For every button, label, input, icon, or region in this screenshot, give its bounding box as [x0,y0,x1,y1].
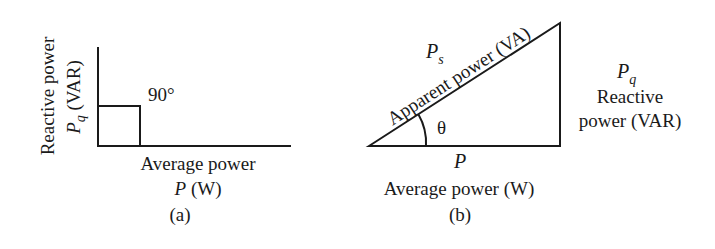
panel-b: θ Ps Apparent power (VA) Pq Reactive pow… [369,22,681,226]
angle-90-label: 90° [148,84,175,105]
reactive-label-line2: power (VAR) [579,110,682,132]
power-diagrams: 90° Reactive power Pq (VAR) Average powe… [0,0,715,249]
panel-b-caption: (b) [449,204,471,226]
average-power-label: Average power [140,153,256,174]
apparent-power-label: Apparent power (VA) [383,22,534,130]
panel-a-caption: (a) [169,204,190,226]
right-angle-marker [98,106,140,146]
apparent-power-symbol: Ps [425,40,444,67]
panel-a: 90° Reactive power Pq (VAR) Average powe… [37,36,291,226]
average-power-symbol: P [453,150,466,172]
reactive-label-line1: Reactive [597,86,663,107]
theta-arc [419,115,427,146]
average-power-symbol-label: P (W) [174,178,222,200]
reactive-power-symbol-label: Pq (VAR) [63,60,88,135]
average-power-label-b: Average power (W) [384,178,535,200]
reactive-power-symbol: Pq [616,60,636,87]
power-triangle [369,23,560,146]
reactive-power-label: Reactive power [37,36,58,155]
theta-label: θ [437,117,446,138]
